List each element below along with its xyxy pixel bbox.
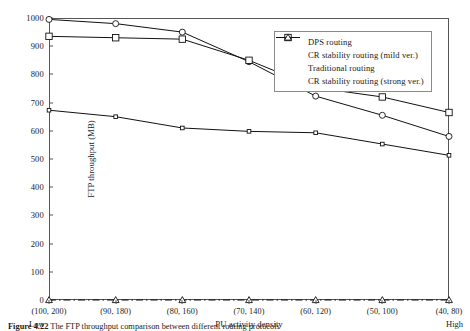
y-tick-label: 500 bbox=[31, 154, 44, 164]
y-tick-label: 600 bbox=[31, 126, 44, 136]
data-point-marker bbox=[246, 57, 252, 63]
x-tick-mark bbox=[49, 300, 50, 304]
legend-symbol-icon bbox=[280, 62, 306, 73]
legend-symbol-icon bbox=[280, 75, 306, 86]
data-point-marker bbox=[379, 94, 385, 100]
y-tick-label: 1000 bbox=[26, 13, 44, 23]
y-tick-label: 200 bbox=[31, 239, 44, 249]
data-point-marker bbox=[379, 112, 385, 118]
figure-number: Figure 4.22 bbox=[8, 322, 48, 331]
x-tick-label: (100, 200) bbox=[31, 307, 66, 316]
x-tick-label: (40, 80) bbox=[436, 307, 463, 316]
data-point-marker bbox=[113, 21, 119, 27]
x-tick-mark bbox=[315, 300, 316, 304]
x-tick-mark bbox=[249, 300, 250, 304]
x-tick-mark bbox=[182, 300, 183, 304]
x-tick-mark bbox=[449, 300, 450, 304]
legend-item-1: CR stability routing (mild ver.) bbox=[280, 48, 424, 61]
data-point-marker bbox=[179, 36, 185, 42]
x-tick-label: (70, 140) bbox=[234, 307, 265, 316]
x-tick-label: (80, 160) bbox=[167, 307, 198, 316]
data-point-marker bbox=[446, 133, 452, 139]
figure-caption: Figure 4.22 The FTP throughput compariso… bbox=[8, 322, 470, 331]
x-tick-mark bbox=[115, 300, 116, 304]
data-point-marker bbox=[112, 35, 118, 41]
chart-plot-area: 01002003004005006007008009001000 FTP thr… bbox=[49, 18, 449, 300]
y-tick-label: 700 bbox=[31, 98, 44, 108]
series-1 bbox=[47, 108, 451, 157]
legend-label: Traditional routing bbox=[306, 63, 375, 73]
data-point-marker bbox=[47, 108, 51, 112]
data-point-marker bbox=[314, 131, 318, 135]
legend-item-0: DPS routing bbox=[280, 35, 424, 48]
data-point-marker bbox=[179, 29, 185, 35]
data-point-marker bbox=[381, 142, 385, 146]
legend-item-3: CR stability routing (strong ver.) bbox=[280, 74, 424, 87]
data-point-marker bbox=[447, 154, 451, 158]
y-tick-label: 900 bbox=[31, 41, 44, 51]
data-point-marker bbox=[114, 115, 118, 119]
x-tick-label: (60, 120) bbox=[300, 307, 331, 316]
legend-item-2: Traditional routing bbox=[280, 61, 424, 74]
figure: 01002003004005006007008009001000 FTP thr… bbox=[0, 0, 470, 331]
data-point-marker bbox=[247, 130, 251, 134]
y-tick-label: 800 bbox=[31, 69, 44, 79]
legend-label: DPS routing bbox=[306, 37, 352, 47]
data-point-marker bbox=[181, 126, 185, 130]
x-tick-label: (50, 100) bbox=[367, 307, 398, 316]
figure-caption-text: The FTP throughput comparison between di… bbox=[50, 322, 280, 331]
y-tick-label: 300 bbox=[31, 210, 44, 220]
legend-label: CR stability routing (strong ver.) bbox=[306, 76, 424, 86]
y-tick-label: 0 bbox=[40, 295, 44, 305]
chart-legend: DPS routingCR stability routing (mild ve… bbox=[274, 31, 432, 92]
legend-symbol-icon bbox=[280, 49, 306, 60]
x-tick-mark bbox=[382, 300, 383, 304]
data-point-marker bbox=[446, 109, 452, 115]
y-tick-label: 400 bbox=[31, 182, 44, 192]
data-point-marker bbox=[46, 16, 52, 22]
data-point-marker bbox=[313, 93, 319, 99]
y-tick-label: 100 bbox=[31, 267, 44, 277]
data-point-marker bbox=[46, 33, 52, 39]
legend-label: CR stability routing (mild ver.) bbox=[306, 50, 418, 60]
x-tick-label: (90, 180) bbox=[100, 307, 131, 316]
